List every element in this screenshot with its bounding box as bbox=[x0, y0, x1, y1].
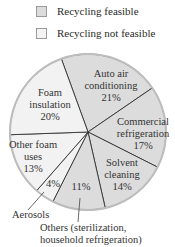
label-others-2: household refrigeration) bbox=[40, 234, 142, 246]
label-comm-1: Commercial bbox=[117, 116, 169, 127]
label-comm-3: 17% bbox=[133, 140, 153, 151]
label-auto-3: 21% bbox=[101, 92, 121, 103]
label-solv-3: 14% bbox=[112, 181, 132, 192]
label-ofoam-3: 13% bbox=[23, 163, 43, 174]
label-foam-2: insulation bbox=[29, 99, 71, 110]
label-auto-2: conditioning bbox=[84, 80, 138, 91]
label-others-pct: 11% bbox=[72, 181, 91, 192]
label-foam-1: Foam bbox=[38, 87, 62, 98]
label-foam-3: 20% bbox=[40, 111, 60, 122]
label-ofoam-2: uses bbox=[24, 151, 42, 162]
label-aero-pct: 4% bbox=[46, 178, 60, 189]
leader-aerosols bbox=[28, 192, 44, 210]
label-aerosols: Aerosols bbox=[12, 209, 49, 221]
label-solv-2: cleaning bbox=[104, 169, 140, 180]
label-comm-2: refrigeration bbox=[117, 128, 170, 139]
label-solv-1: Solvent bbox=[106, 157, 138, 168]
label-auto-1: Auto air bbox=[94, 68, 129, 79]
label-others-1: Others (sterilization, bbox=[40, 222, 126, 234]
label-ofoam-1: Other foam bbox=[9, 139, 57, 150]
